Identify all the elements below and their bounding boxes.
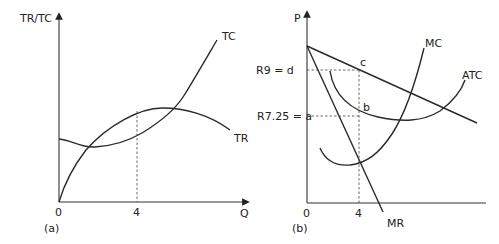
point-c-label: c	[360, 56, 366, 69]
tick-4-b: 4	[355, 207, 362, 220]
panel-a: TR/TC TC TR 0 4 Q (a)	[19, 12, 249, 235]
demand-curve	[307, 46, 477, 123]
atc-curve-main	[330, 71, 465, 120]
atc-label: ATC	[462, 69, 483, 82]
tr-label: TR	[233, 132, 249, 145]
mr-label: MR	[387, 217, 404, 230]
origin-a: 0	[55, 206, 62, 219]
tr-curve	[59, 108, 230, 202]
axis-label-p: P	[294, 12, 301, 25]
panel-b: P R9 = d R7.25 = a c b MC ATC MR 0 4 (b)	[256, 12, 486, 235]
tc-label: TC	[221, 30, 236, 43]
axis-label-trtc: TR/TC	[19, 12, 52, 25]
axis-label-q: Q	[240, 207, 249, 220]
panel-label-a: (a)	[44, 222, 59, 235]
mc-curve	[320, 48, 424, 165]
mr-curve	[307, 46, 383, 212]
tc-curve	[59, 40, 217, 147]
economics-diagram: TR/TC TC TR 0 4 Q (a) P R9 = d R7.25 = a…	[0, 0, 499, 244]
price-d-label: R9 = d	[256, 64, 294, 77]
mc-label: MC	[425, 37, 442, 50]
origin-b: 0	[303, 207, 310, 220]
point-b-label: b	[363, 101, 370, 114]
tick-4-a: 4	[133, 206, 140, 219]
panel-label-b: (b)	[292, 222, 308, 235]
price-a-label: R7.25 = a	[257, 110, 312, 123]
